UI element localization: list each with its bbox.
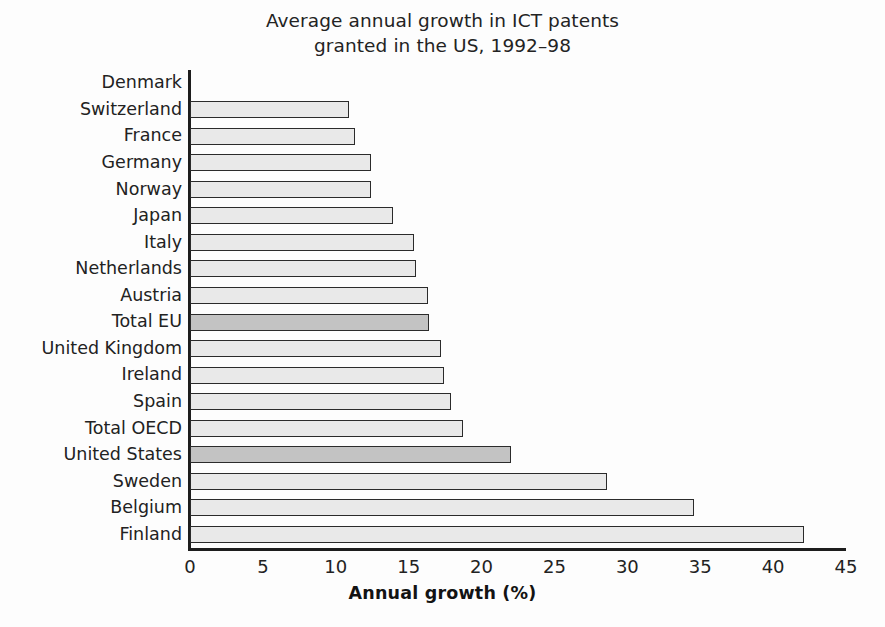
y-tick-label-netherlands: Netherlands xyxy=(2,260,182,277)
x-tick-label-5: 5 xyxy=(233,556,293,577)
chart-figure: Average annual growth in ICT patents gra… xyxy=(0,0,885,627)
bar-row xyxy=(190,70,846,97)
bar-row xyxy=(190,442,846,469)
y-tick-label-finland: Finland xyxy=(2,526,182,543)
bar-row xyxy=(190,389,846,416)
x-axis-line xyxy=(188,548,846,551)
bar-netherlands[interactable] xyxy=(190,260,416,277)
x-tick-label-10: 10 xyxy=(306,556,366,577)
bar-row xyxy=(190,229,846,256)
y-tick-label-italy: Italy xyxy=(2,234,182,251)
y-tick-label-austria: Austria xyxy=(2,287,182,304)
bar-row xyxy=(190,495,846,522)
x-tick-label-0: 0 xyxy=(160,556,220,577)
bar-row xyxy=(190,282,846,309)
bar-switzerland[interactable] xyxy=(190,101,349,118)
x-axis-title: Annual growth (%) xyxy=(0,583,885,603)
y-tick-label-total-oecd: Total OECD xyxy=(2,420,182,437)
x-tick-label-20: 20 xyxy=(452,556,512,577)
x-tick-label-30: 30 xyxy=(597,556,657,577)
bar-germany[interactable] xyxy=(190,154,371,171)
bar-austria[interactable] xyxy=(190,287,428,304)
bar-united-kingdom[interactable] xyxy=(190,340,441,357)
y-tick-label-norway: Norway xyxy=(2,181,182,198)
y-tick-label-france: France xyxy=(2,127,182,144)
bar-row xyxy=(190,203,846,230)
bar-row xyxy=(190,415,846,442)
y-tick-label-denmark: Denmark xyxy=(2,74,182,91)
bar-italy[interactable] xyxy=(190,234,414,251)
bar-total-oecd[interactable] xyxy=(190,420,463,437)
x-tick-label-15: 15 xyxy=(379,556,439,577)
bar-row xyxy=(190,309,846,336)
y-tick-label-united-kingdom: United Kingdom xyxy=(2,340,182,357)
x-tick-label-25: 25 xyxy=(524,556,584,577)
bar-row xyxy=(190,468,846,495)
y-axis-tick-labels: DenmarkSwitzerlandFranceGermanyNorwayJap… xyxy=(0,70,182,548)
y-tick-label-ireland: Ireland xyxy=(2,366,182,383)
x-tick-label-40: 40 xyxy=(743,556,803,577)
bar-japan[interactable] xyxy=(190,207,393,224)
bar-belgium[interactable] xyxy=(190,499,694,516)
bar-row xyxy=(190,150,846,177)
x-tick-label-35: 35 xyxy=(670,556,730,577)
bar-row xyxy=(190,521,846,548)
y-tick-label-united-states: United States xyxy=(2,446,182,463)
bar-spain[interactable] xyxy=(190,393,451,410)
bar-norway[interactable] xyxy=(190,181,371,198)
bar-france[interactable] xyxy=(190,128,355,145)
bar-row xyxy=(190,97,846,124)
y-tick-label-sweden: Sweden xyxy=(2,473,182,490)
bar-ireland[interactable] xyxy=(190,367,444,384)
x-tick-label-45: 45 xyxy=(816,556,876,577)
bar-united-states[interactable] xyxy=(190,446,511,463)
plot-area: 051015202530354045 xyxy=(190,70,846,548)
bar-row xyxy=(190,256,846,283)
chart-title-line-2: granted in the US, 1992–98 xyxy=(0,33,885,58)
y-tick-label-spain: Spain xyxy=(2,393,182,410)
chart-title: Average annual growth in ICT patents gra… xyxy=(0,8,885,58)
y-tick-label-switzerland: Switzerland xyxy=(2,101,182,118)
bar-total-eu[interactable] xyxy=(190,314,429,331)
chart-title-line-1: Average annual growth in ICT patents xyxy=(0,8,885,33)
bar-row xyxy=(190,362,846,389)
bar-row xyxy=(190,123,846,150)
y-tick-label-total-eu: Total EU xyxy=(2,313,182,330)
y-tick-label-japan: Japan xyxy=(2,207,182,224)
y-tick-label-germany: Germany xyxy=(2,154,182,171)
bar-row xyxy=(190,336,846,363)
y-tick-label-belgium: Belgium xyxy=(2,499,182,516)
bar-row xyxy=(190,176,846,203)
bar-finland[interactable] xyxy=(190,526,804,543)
bar-sweden[interactable] xyxy=(190,473,607,490)
